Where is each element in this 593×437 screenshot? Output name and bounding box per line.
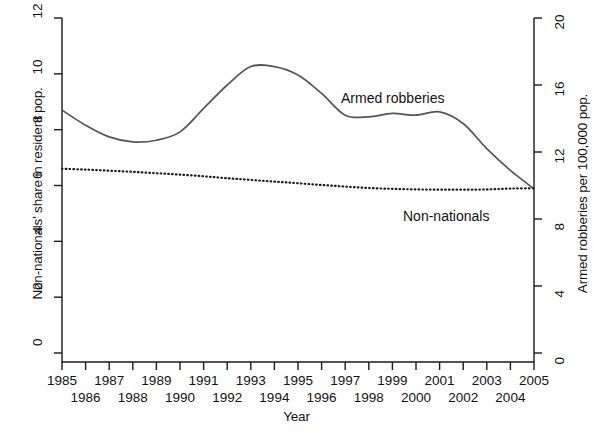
x-axis-tick-label: 1987 xyxy=(86,373,132,388)
x-axis-tick-label: 1994 xyxy=(251,390,297,405)
chart-figure: Non-nationals' share in resident pop. Ar… xyxy=(0,0,593,437)
y-axis-left-tick-label: 2 xyxy=(30,283,45,309)
x-axis-tick-label: 2004 xyxy=(487,390,533,405)
x-axis-tick-label: 2001 xyxy=(417,373,463,388)
y-axis-left-tick-label: 8 xyxy=(30,115,45,141)
y-axis-left-tick-label: 12 xyxy=(30,4,45,30)
y-axis-right-tick-label: 0 xyxy=(552,339,567,365)
y-axis-left-tick-label: 10 xyxy=(30,59,45,85)
x-axis-tick-label: 1996 xyxy=(299,390,345,405)
series-line-armed-robberies xyxy=(62,65,534,189)
x-axis-tick-label: 1991 xyxy=(181,373,227,388)
x-axis-tick-label: 1988 xyxy=(110,390,156,405)
x-axis-tick-label: 2003 xyxy=(464,373,510,388)
y-axis-left-tick-label: 4 xyxy=(30,227,45,253)
y-axis-left-tick-label: 0 xyxy=(30,339,45,365)
x-axis-tick-label: 2002 xyxy=(440,390,486,405)
y-axis-right-tick-label: 12 xyxy=(552,138,567,164)
x-axis-tick-label: 1992 xyxy=(204,390,250,405)
x-axis-tick-label: 1989 xyxy=(133,373,179,388)
x-axis-tick-label: 1997 xyxy=(322,373,368,388)
x-axis-tick-label: 1995 xyxy=(275,373,321,388)
x-axis-tick-label: 1999 xyxy=(369,373,415,388)
x-axis-tick-label: 2000 xyxy=(393,390,439,405)
plot-area xyxy=(0,0,593,437)
y-axis-left-tick-label: 6 xyxy=(30,171,45,197)
x-axis-tick-label: 1985 xyxy=(39,373,85,388)
x-axis-tick-label: 1998 xyxy=(346,390,392,405)
y-axis-right-tick-label: 20 xyxy=(552,4,567,30)
y-axis-right-tick-label: 4 xyxy=(552,272,567,298)
series-line-non-nationals xyxy=(62,169,534,190)
y-axis-right-ticks xyxy=(534,18,542,353)
x-axis-tick-label: 1993 xyxy=(228,373,274,388)
x-axis-ticks xyxy=(62,362,534,370)
x-axis-tick-label: 1990 xyxy=(157,390,203,405)
y-axis-left-ticks xyxy=(54,18,62,353)
y-axis-right-tick-label: 8 xyxy=(552,205,567,231)
x-axis-tick-label: 2005 xyxy=(511,373,557,388)
y-axis-right-tick-label: 16 xyxy=(552,71,567,97)
x-axis-tick-label: 1986 xyxy=(63,390,109,405)
